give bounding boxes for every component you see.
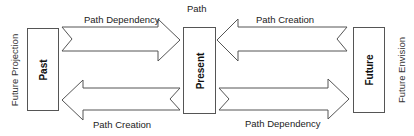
present-box: Present [183,27,216,114]
future-box: Future [353,27,385,113]
present-label: Present [194,52,205,89]
future-envision-label: Future Envision [396,37,407,103]
future-projection-label: Future Projection [9,34,20,106]
path-creation-top-label: Path Creation [256,14,314,25]
arrow-path-dependency-top [62,19,180,61]
arrow-path-creation-bottom [62,80,180,120]
path-label: Path [187,3,207,14]
future-label: Future [364,54,375,85]
path-dependency-top-label: Path Dependency [84,14,160,25]
arrow-path-creation-top [217,19,347,61]
past-box: Past [27,28,59,111]
path-dependency-bottom-label: Path Dependency [245,118,321,129]
arrow-path-dependency-bottom [219,79,349,119]
past-label: Past [38,59,49,80]
path-creation-bottom-label: Path Creation [93,119,151,130]
